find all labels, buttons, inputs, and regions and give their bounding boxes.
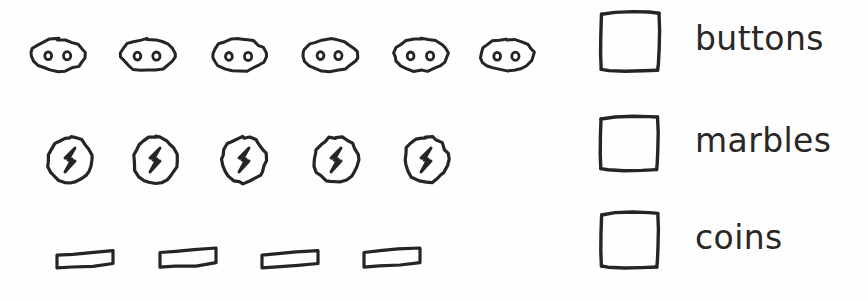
marble-glyph [400,134,452,186]
legend-swatch-coins [597,207,661,271]
coin-glyph [362,245,422,271]
coin-icon [260,245,320,271]
button-icon [209,35,269,75]
legend-label-buttons: buttons [695,22,824,55]
marble-glyph [44,134,96,186]
button-icon [300,35,360,75]
legend-label-coins: coins [695,221,783,254]
legend-entry-marbles: marbles [580,112,868,202]
coin-glyph [260,245,320,271]
pictograph-figure: buttons marbles [0,0,868,301]
marble-icon [129,134,181,186]
coin-icon [362,245,422,271]
pictograph-row-marbles [0,116,580,204]
coin-icon [158,245,218,271]
legend: buttons marbles [580,0,868,301]
hand-drawn-square-icon [597,207,661,271]
marble-icon [44,134,96,186]
button-glyph [118,35,178,75]
marble-glyph [129,134,181,186]
legend-swatch-marbles [597,112,661,174]
coin-glyph [158,245,218,271]
pictograph-plot-area [0,0,580,301]
coin-icon [55,245,115,271]
button-icon [477,35,537,75]
button-icon [28,35,88,75]
hand-drawn-square-icon [597,8,663,74]
legend-label-marbles: marbles [695,124,831,157]
marble-icon [310,134,362,186]
marble-glyph [218,134,270,186]
button-icon [391,35,451,75]
marble-icon [400,134,452,186]
hand-drawn-square-icon [597,112,661,174]
marble-glyph [310,134,362,186]
pictograph-row-buttons [0,11,580,99]
button-icon [118,35,178,75]
button-glyph [391,35,451,75]
marble-icon [218,134,270,186]
button-glyph [300,35,360,75]
button-glyph [28,35,88,75]
button-glyph [477,35,537,75]
legend-entry-coins: coins [580,207,868,297]
button-glyph [209,35,269,75]
legend-entry-buttons: buttons [580,8,868,98]
legend-swatch-buttons [597,8,663,74]
pictograph-row-coins [0,214,580,301]
coin-glyph [55,245,115,271]
